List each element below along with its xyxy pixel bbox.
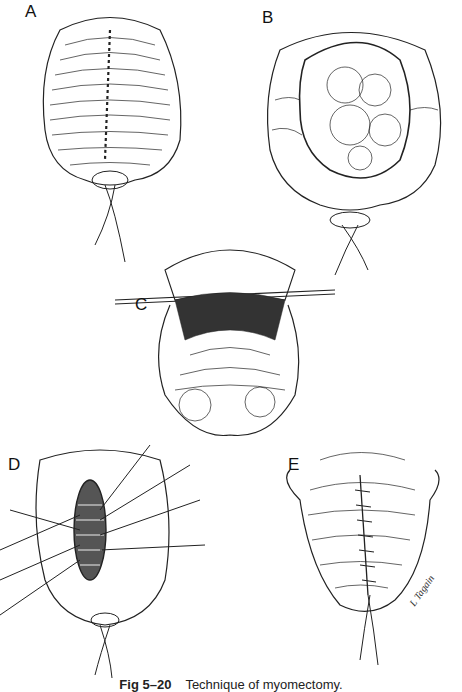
figure-number: Fig 5–20 xyxy=(119,677,171,692)
panel-e: E xyxy=(260,420,460,680)
panel-b-label: B xyxy=(262,8,273,28)
figure-caption-text: Technique of myomectomy. xyxy=(185,677,342,692)
panel-c-label: C xyxy=(135,295,147,315)
figure-caption: Fig 5–20Technique of myomectomy. xyxy=(0,677,462,692)
panel-a-label: A xyxy=(25,2,36,22)
uterine-closure-sutures-illustration xyxy=(0,420,220,680)
panel-c: C xyxy=(110,230,350,450)
myoma-enucleation-illustration xyxy=(110,230,350,450)
panel-d-label: D xyxy=(8,455,20,475)
panel-e-label: E xyxy=(288,455,299,475)
panel-d: D xyxy=(0,420,220,680)
